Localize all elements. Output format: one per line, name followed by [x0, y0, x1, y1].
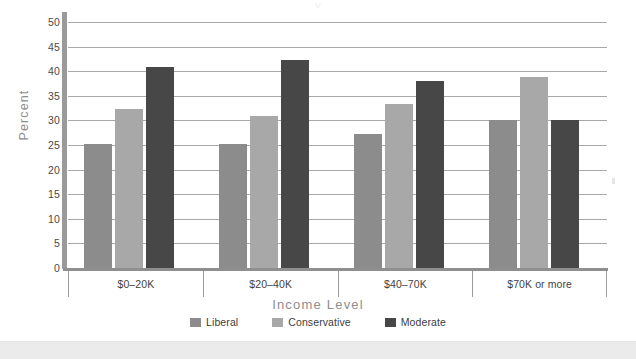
bar	[354, 134, 382, 268]
x-axis-category-text: $70K or more	[507, 278, 572, 290]
bar-chart: Percent 05101520253035404550 $0–20K$20–4…	[0, 0, 636, 340]
bar	[250, 116, 278, 268]
x-axis-category-text: $0–20K	[117, 278, 154, 290]
chart-legend: LiberalConservativeModerate	[0, 315, 636, 329]
y-axis-tick-label: 30	[16, 115, 60, 125]
y-axis-tick-label: 0	[16, 263, 60, 273]
y-axis-tick-label: 40	[16, 66, 60, 76]
bar	[385, 104, 413, 268]
legend-item: Liberal	[190, 316, 238, 328]
y-axis-tick-label: 50	[16, 17, 60, 27]
y-axis-tick-label: 35	[16, 91, 60, 101]
bar	[416, 81, 444, 268]
bar	[551, 120, 579, 268]
y-axis-tick-label: 10	[16, 214, 60, 224]
legend-swatch	[272, 318, 283, 327]
legend-label: Liberal	[206, 316, 238, 328]
bar	[281, 60, 309, 268]
bar	[146, 67, 174, 268]
y-axis-tick-labels: 05101520253035404550	[8, 22, 60, 268]
edge-artifact	[612, 178, 615, 184]
bar-series-container	[68, 22, 607, 268]
x-axis-category-text: $40–70K	[384, 278, 427, 290]
x-axis-category-label: $20–40K	[203, 271, 338, 297]
legend-label: Moderate	[401, 316, 446, 328]
x-axis-category-label: $70K or more	[472, 271, 607, 297]
plot-area	[68, 22, 607, 268]
bar	[115, 109, 143, 268]
y-axis-spine	[62, 12, 67, 269]
y-axis-tick-label: 45	[16, 42, 60, 52]
legend-label: Conservative	[288, 316, 350, 328]
legend-item: Moderate	[385, 316, 446, 328]
x-axis-category-label: $40–70K	[338, 271, 473, 297]
y-axis-tick-label: 5	[16, 238, 60, 248]
y-axis-tick-label: 20	[16, 165, 60, 175]
bar	[219, 144, 247, 268]
x-axis-title: Income Level	[0, 297, 636, 312]
bar	[84, 144, 112, 268]
x-axis-category-label: $0–20K	[68, 271, 203, 297]
legend-item: Conservative	[272, 316, 350, 328]
y-axis-tick-label: 15	[16, 189, 60, 199]
x-axis-category-labels: $0–20K$20–40K$40–70K$70K or more	[68, 271, 607, 297]
bar	[520, 77, 548, 268]
x-axis-category-text: $20–40K	[249, 278, 292, 290]
footer-strip	[0, 341, 636, 359]
y-axis-tick-label: 25	[16, 140, 60, 150]
legend-swatch	[190, 318, 201, 327]
legend-swatch	[385, 318, 396, 327]
bar	[489, 120, 517, 268]
